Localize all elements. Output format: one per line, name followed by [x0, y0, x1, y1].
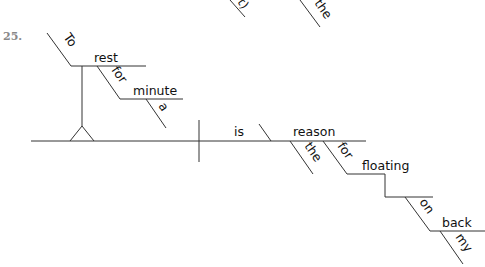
word-the: the — [302, 139, 326, 165]
sentence-diagram: t) the 25. To rest for minute a is reaso… — [0, 0, 485, 267]
word-for-2: for — [335, 139, 358, 162]
word-is: is — [234, 124, 244, 139]
word-a: a — [156, 99, 173, 114]
word-rest: rest — [94, 50, 118, 65]
word-minute: minute — [133, 83, 177, 98]
word-floating: floating — [362, 158, 409, 173]
word-on: on — [417, 195, 438, 216]
word-my: my — [453, 230, 477, 255]
word-back: back — [442, 215, 472, 230]
word-reason: reason — [293, 124, 335, 139]
exercise-number: 25. — [3, 30, 22, 43]
fragment-right: the — [312, 0, 336, 22]
complement-slant — [259, 124, 271, 141]
pedestal-base — [70, 126, 94, 141]
word-for-1: for — [109, 63, 132, 86]
word-to: To — [60, 29, 80, 49]
fragment-left: t) — [235, 0, 253, 12]
